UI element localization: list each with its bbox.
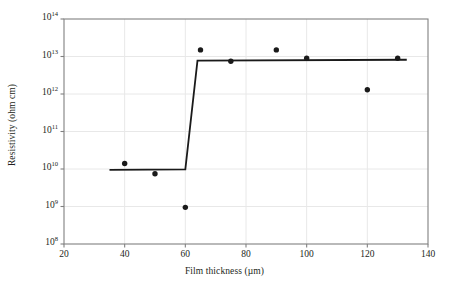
y-tick-label: 1010 xyxy=(18,162,58,172)
x-tick-label: 20 xyxy=(44,249,84,259)
y-axis-title-wrap: Resistivity (ohm cm) xyxy=(0,0,24,250)
series-data-points xyxy=(122,47,400,210)
x-tick-label: 40 xyxy=(105,249,145,259)
x-axis-title: Film thickness (µm) xyxy=(0,266,449,276)
x-tick-label: 80 xyxy=(226,249,266,259)
y-tick-label: 1014 xyxy=(18,12,58,22)
chart-figure: 20406080100120140 1081091010101110121013… xyxy=(0,0,449,291)
axis-ticks xyxy=(61,19,429,248)
y-tick-label: 109 xyxy=(18,200,58,210)
y-tick-label: 1011 xyxy=(18,125,58,135)
y-axis-title: Resistivity (ohm cm) xyxy=(7,84,17,166)
x-tick-label: 100 xyxy=(287,249,327,259)
chart-plot-area xyxy=(0,0,449,291)
series-step-fit-line xyxy=(110,60,407,170)
y-tick-label: 1012 xyxy=(18,87,58,97)
y-tick-label: 1013 xyxy=(18,50,58,60)
gridlines xyxy=(64,19,428,244)
x-tick-label: 140 xyxy=(408,249,448,259)
y-tick-label: 108 xyxy=(18,237,58,247)
x-tick-label: 120 xyxy=(347,249,387,259)
x-tick-label: 60 xyxy=(165,249,205,259)
